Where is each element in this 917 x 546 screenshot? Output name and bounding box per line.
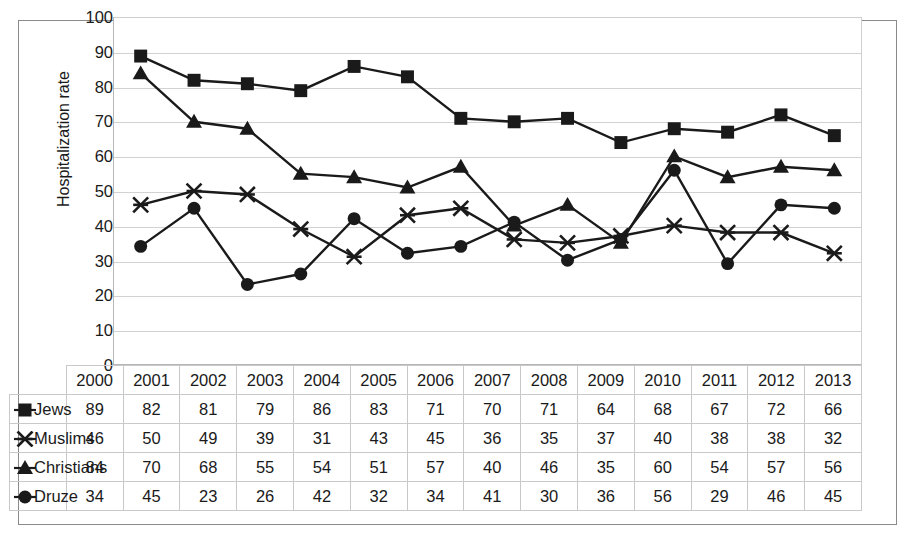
table-cell: 81 [180, 395, 237, 424]
table-cell: 26 [237, 482, 294, 511]
y-tick-label: 10 [58, 322, 113, 339]
legend-item-jews: Jews [10, 395, 67, 424]
table-column-header: 2005 [350, 366, 407, 395]
table-cell: 67 [691, 395, 748, 424]
table-cell: 36 [464, 424, 521, 453]
table-cell: 86 [293, 395, 350, 424]
table-cell: 50 [123, 424, 180, 453]
data-point-marker-circle [561, 254, 574, 267]
data-point-marker-square [348, 60, 361, 73]
table-cell: 79 [237, 395, 294, 424]
data-point-marker-square [401, 70, 414, 83]
table-cell: 71 [407, 395, 464, 424]
data-point-marker-x [560, 235, 575, 250]
data-point-marker-x [240, 187, 255, 202]
table-cell: 45 [407, 424, 464, 453]
data-point-marker-x [720, 225, 735, 240]
data-point-marker-square [668, 122, 681, 135]
table-row: Muslims4650493931434536353740383832 [10, 424, 862, 453]
data-point-marker-square [828, 129, 841, 142]
data-point-marker-triangle [453, 159, 469, 173]
table-cell: 46 [521, 453, 578, 482]
y-tick-label: 60 [58, 148, 113, 165]
table-cell: 32 [805, 424, 862, 453]
data-point-marker-square [134, 50, 147, 63]
table-cell: 72 [748, 395, 805, 424]
table-cell: 35 [577, 453, 634, 482]
data-point-marker-square [454, 112, 467, 125]
data-point-marker-circle [828, 202, 841, 215]
data-point-marker-x [827, 246, 842, 261]
data-point-marker-circle [241, 278, 254, 291]
data-point-marker-x [773, 225, 788, 240]
y-axis-tick-labels: 1009080706050403020100 [58, 17, 113, 365]
table-cell: 36 [577, 482, 634, 511]
table-cell: 64 [577, 395, 634, 424]
table-row: Jews8982817986837170716468677266 [10, 395, 862, 424]
table-column-header: 2007 [464, 366, 521, 395]
table-column-header: 2000 [66, 366, 123, 395]
legend-marker-circle-icon [14, 486, 34, 505]
y-tick-label: 40 [58, 218, 113, 235]
table-cell: 30 [521, 482, 578, 511]
data-point-marker-square [19, 403, 32, 416]
table-cell: 55 [237, 453, 294, 482]
table-cell: 82 [123, 395, 180, 424]
table-cell: 89 [66, 395, 123, 424]
data-point-marker-circle [668, 164, 681, 177]
data-point-marker-circle [188, 202, 201, 215]
data-point-marker-circle [774, 198, 787, 211]
data-point-marker-triangle [133, 65, 149, 79]
table-cell: 40 [464, 453, 521, 482]
table-column-header: 2004 [293, 366, 350, 395]
table-column-header: 2009 [577, 366, 634, 395]
table-column-header: 2011 [691, 366, 748, 395]
table-cell: 54 [691, 453, 748, 482]
data-point-marker-circle [454, 240, 467, 253]
table-column-header: 2006 [407, 366, 464, 395]
data-point-marker-x [507, 232, 522, 247]
y-tick-label: 70 [58, 113, 113, 130]
data-point-marker-square [721, 126, 734, 139]
series-line [141, 73, 835, 243]
table-cell: 34 [407, 482, 464, 511]
chart-data-table: 2000200120022003200420052006200720082009… [9, 365, 862, 511]
table-cell: 32 [350, 482, 407, 511]
table-corner-cell [10, 366, 67, 395]
legend-item-muslims: Muslims [10, 424, 67, 453]
table-header-row: 2000200120022003200420052006200720082009… [10, 366, 862, 395]
y-tick-label: 100 [58, 9, 113, 26]
table-cell: 41 [464, 482, 521, 511]
table-cell: 71 [521, 395, 578, 424]
legend-label: Druze [34, 487, 78, 505]
table-cell: 45 [805, 482, 862, 511]
table-cell: 49 [180, 424, 237, 453]
table-cell: 68 [634, 395, 691, 424]
table-column-header: 2012 [748, 366, 805, 395]
data-point-marker-x [133, 197, 148, 212]
table-cell: 43 [350, 424, 407, 453]
data-point-marker-square [508, 115, 521, 128]
legend-item-druze: Druze [10, 482, 67, 511]
data-point-marker-triangle [560, 197, 576, 211]
data-point-marker-circle [134, 240, 147, 253]
table-row: Druze3445232642323441303656294645 [10, 482, 862, 511]
y-tick-label: 80 [58, 78, 113, 95]
data-point-marker-square [294, 84, 307, 97]
table-cell: 51 [350, 453, 407, 482]
data-point-marker-x [667, 218, 682, 233]
legend-marker-x-icon [14, 428, 34, 447]
table-column-header: 2010 [634, 366, 691, 395]
data-point-marker-x [18, 431, 33, 446]
data-point-marker-circle [401, 247, 414, 260]
legend-marker-triangle-icon [14, 457, 34, 476]
data-point-marker-x [453, 201, 468, 216]
data-point-marker-square [188, 74, 201, 87]
series-lines-layer [114, 18, 861, 364]
table-cell: 68 [180, 453, 237, 482]
table-column-header: 2008 [521, 366, 578, 395]
table-column-header: 2003 [237, 366, 294, 395]
table-cell: 83 [350, 395, 407, 424]
table-column-header: 2013 [805, 366, 862, 395]
data-point-marker-triangle [666, 148, 682, 162]
